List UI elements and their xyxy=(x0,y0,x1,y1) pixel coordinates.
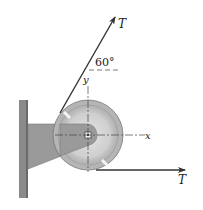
wall-support xyxy=(19,100,28,198)
angle-label: 60° xyxy=(95,56,115,69)
pulley-diagram: T 60° y x T xyxy=(0,0,203,210)
x-axis-label: x xyxy=(145,130,151,141)
lower-tension-label: T xyxy=(178,173,187,187)
y-axis-label: y xyxy=(82,74,89,85)
upper-tension-label: T xyxy=(118,17,127,31)
